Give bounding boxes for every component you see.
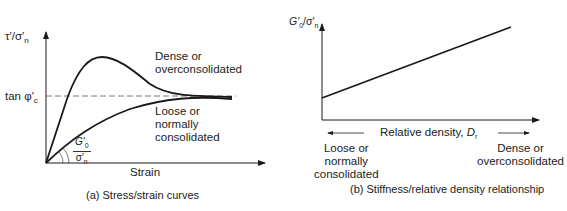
tan-phi-label: tan φ′c	[5, 90, 38, 107]
slope-fraction: G′0 σ′n	[73, 136, 91, 167]
dense-oc-label: Dense oroverconsolidated	[477, 142, 564, 168]
loose-nc-label: Loose ornormallyconsolidated	[314, 142, 379, 181]
stiffness-line	[322, 27, 511, 98]
panel-b-caption: (b) Stiffness/relative density relations…	[350, 183, 544, 196]
dense-label: Dense oroverconsolidated	[155, 50, 242, 76]
slope-arc-inner	[58, 151, 63, 163]
diagram-canvas	[0, 0, 567, 211]
loose-label: Loose ornormallyconsolidated	[155, 105, 220, 144]
panel-b-axes	[322, 24, 539, 120]
strain-label: Strain	[130, 166, 160, 179]
panel-b-y-label: G′0/σ′n	[289, 15, 318, 32]
relative-density-label: Relative density, Dr	[380, 126, 477, 143]
panel-a-caption: (a) Stress/strain curves	[86, 189, 199, 202]
panel-a-y-label: τ′/σ′n	[5, 30, 29, 47]
